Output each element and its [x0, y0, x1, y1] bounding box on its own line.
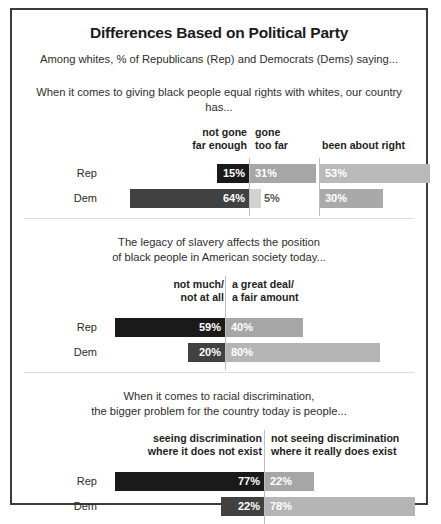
bar-value-rep-right: 22%: [270, 472, 320, 491]
page-subtitle: Among whites, % of Republicans (Rep) and…: [12, 53, 426, 65]
bar-value-rep-left: 59%: [115, 318, 221, 337]
row-label-rep: Rep: [37, 475, 97, 487]
bar-value-rep-far: 53%: [325, 164, 385, 183]
column-header-not-seeing-discrimination: not seeing discrimination where it reall…: [271, 432, 431, 458]
section-question: The legacy of slavery affects the positi…: [12, 235, 426, 264]
bar-dem-mid: [250, 189, 261, 208]
section-question: When it comes to giving black people equ…: [12, 85, 426, 114]
chart-area: seeing discrimination where it does not …: [12, 426, 426, 524]
chart-panel: Differences Based on Political Party Amo…: [10, 8, 428, 505]
column-header-seeing-discrimination: seeing discrimination where it does not …: [122, 432, 262, 458]
column-header-great-deal-fair-amount: a great deal/ a fair amount: [232, 278, 372, 304]
section-racial-discrimination: When it comes to racial discrimination, …: [12, 389, 426, 524]
bar-value-dem-mid: 5%: [264, 189, 314, 208]
row-label-dem: Dem: [37, 500, 97, 512]
bar-value-dem-right: 78%: [270, 497, 320, 516]
bar-value-dem-left: 22%: [221, 497, 260, 516]
bar-value-dem-far: 30%: [325, 189, 385, 208]
bar-value-dem-left: 64%: [130, 189, 245, 208]
page-title: Differences Based on Political Party: [12, 24, 426, 42]
section-separator-1: [24, 218, 414, 219]
bar-value-rep-left: 15%: [217, 164, 245, 183]
column-header-not-much-not-at-all: not much/ not at all: [132, 278, 224, 304]
bar-value-dem-right: 80%: [231, 343, 291, 362]
section-separator-2: [24, 372, 414, 373]
row-label-dem: Dem: [37, 192, 97, 204]
section-equal-rights: When it comes to giving black people equ…: [12, 85, 426, 218]
column-header-been-about-right: been about right: [322, 139, 441, 152]
bar-value-rep-left: 77%: [115, 472, 260, 491]
bar-value-rep-mid: 31%: [255, 164, 305, 183]
bar-value-rep-right: 40%: [231, 318, 291, 337]
chart-area: not gone far enough gone too far been ab…: [12, 122, 426, 218]
chart-area: not much/ not at all a great deal/ a fai…: [12, 272, 426, 372]
bar-value-dem-left: 20%: [188, 343, 221, 362]
section-legacy-of-slavery: The legacy of slavery affects the positi…: [12, 235, 426, 372]
section-question: When it comes to racial discrimination, …: [12, 389, 426, 418]
row-label-rep: Rep: [37, 321, 97, 333]
row-label-dem: Dem: [37, 346, 97, 358]
row-label-rep: Rep: [37, 167, 97, 179]
column-header-not-gone-far-enough: not gone far enough: [157, 126, 247, 152]
